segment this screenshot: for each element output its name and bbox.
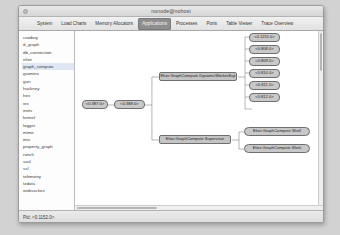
tree-node-worker[interactable]: Elixir.GraphCompute.Work — [244, 144, 310, 153]
list-item[interactable]: iex — [22, 100, 74, 107]
list-item[interactable]: mix — [22, 136, 74, 143]
tree-edges — [75, 31, 323, 210]
list-item[interactable]: mime — [22, 129, 74, 136]
tree-node-child-pid[interactable]: <0.810.0> — [249, 69, 280, 78]
tab-ports[interactable]: Ports — [202, 18, 221, 30]
observer-window: nonode@nohost System Load Charts Memory … — [18, 5, 324, 223]
list-item[interactable]: gramtex — [22, 70, 74, 77]
list-item[interactable]: kernel — [22, 114, 74, 121]
tab-load-charts[interactable]: Load Charts — [57, 18, 90, 30]
list-item[interactable]: graph_compute — [22, 63, 74, 70]
list-item[interactable]: tzdata — [22, 180, 74, 187]
list-item[interactable]: hex — [22, 92, 74, 99]
tab-table-viewer[interactable]: Table Viewer — [222, 18, 256, 30]
tab-system[interactable]: System — [33, 18, 56, 30]
desktop-background: nonode@nohost System Load Charts Memory … — [0, 0, 340, 235]
list-item[interactable]: logger — [22, 122, 74, 129]
window-body: cowboy d_graph db_connection elixir grap… — [19, 31, 323, 210]
tree-node-worker[interactable]: Elixir.GraphCompute.Shell — [244, 127, 310, 136]
list-item[interactable]: hackney — [22, 85, 74, 92]
tab-bar: System Load Charts Memory Allocators App… — [19, 17, 323, 31]
canvas-vertical-scrollbar[interactable] — [318, 31, 323, 210]
tree-node-app-sup-pid[interactable]: <0.388.0> — [114, 100, 145, 109]
list-item[interactable]: sasl — [22, 158, 74, 165]
tab-trace-overview[interactable]: Trace Overview — [257, 18, 297, 30]
scrollbar-thumb[interactable] — [320, 33, 322, 71]
tree-node-child-pid[interactable]: <0.809.0> — [249, 57, 280, 66]
tree-node-root-pid[interactable]: <0.387.0> — [82, 100, 108, 109]
list-item[interactable]: cowboy — [22, 34, 74, 41]
tab-processes[interactable]: Processes — [172, 18, 201, 30]
tree-node-child-pid[interactable]: <0.811.0> — [249, 81, 280, 90]
supervision-tree-canvas[interactable]: <0.387.0> <0.388.0> Elixir.GraphCompute.… — [75, 31, 323, 210]
window-titlebar[interactable]: nonode@nohost — [19, 6, 323, 17]
list-item[interactable]: property_graph — [22, 143, 74, 150]
tab-applications[interactable]: Applications — [138, 18, 171, 30]
tree-node-child-pid[interactable]: <0.812.0> — [249, 93, 280, 102]
list-item[interactable]: gun — [22, 78, 74, 85]
list-item[interactable]: telemetry — [22, 173, 74, 180]
list-item[interactable]: websockex — [22, 187, 74, 194]
window-title: nonode@nohost — [19, 7, 323, 16]
tab-memory-allocators[interactable]: Memory Allocators — [91, 18, 137, 30]
list-item[interactable]: d_graph — [22, 41, 74, 48]
status-bar: Pid: <0.1152.0> — [19, 210, 323, 223]
scrollbar-thumb[interactable] — [77, 207, 157, 209]
list-item[interactable]: db_connection — [22, 49, 74, 56]
status-pid-text: Pid: <0.1152.0> — [23, 215, 54, 220]
tree-node-child-pid[interactable]: <0.808.0> — [249, 45, 280, 54]
list-item[interactable]: ranch — [22, 151, 74, 158]
list-item[interactable]: inets — [22, 107, 74, 114]
tree-node-supervisor[interactable]: Elixir.GraphCompute.DynamicWorkerSup — [159, 72, 237, 81]
tree-node-child-pid[interactable]: <0.1155.0> — [249, 33, 280, 42]
list-item[interactable]: ssl — [22, 165, 74, 172]
application-list[interactable]: cowboy d_graph db_connection elixir grap… — [19, 31, 75, 210]
tree-node-supervisor[interactable]: Elixir.GraphCompute.Supervisor — [159, 135, 231, 144]
list-item[interactable]: elixir — [22, 56, 74, 63]
